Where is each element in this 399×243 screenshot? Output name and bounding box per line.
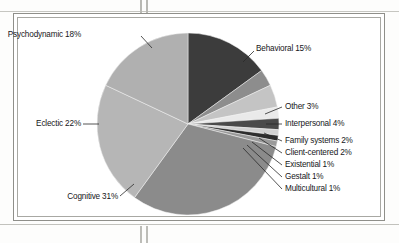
pie-chart: Psychodynamic 18% Behavioral 15% Other 3… bbox=[0, 0, 399, 243]
page-gutter-line-bottom-right bbox=[146, 226, 148, 243]
slice-label-family-systems: Family systems 2% bbox=[285, 136, 353, 145]
slice-label-multicultural: Multicultural 1% bbox=[285, 184, 340, 193]
figure-page: Psychodynamic 18% Behavioral 15% Other 3… bbox=[0, 0, 399, 243]
slice-label-existential: Existential 1% bbox=[285, 160, 334, 169]
slice-label-other: Other 3% bbox=[285, 102, 318, 111]
slice-label-client-centered: Client-centered 2% bbox=[285, 148, 352, 157]
page-gutter-line-bottom-left bbox=[140, 226, 142, 243]
slice-label-psychodynamic: Psychodynamic 18% bbox=[8, 30, 81, 39]
slice-label-cognitive: Cognitive 31% bbox=[67, 192, 118, 201]
slice-label-behavioral: Behavioral 15% bbox=[256, 44, 311, 53]
page-bottom-rule bbox=[0, 224, 399, 225]
pie-slice-group bbox=[97, 33, 279, 215]
slice-label-eclectic: Eclectic 22% bbox=[36, 119, 81, 128]
slice-label-interpersonal: Interpersonal 4% bbox=[285, 119, 344, 128]
slice-label-gestalt: Gestalt 1% bbox=[285, 172, 323, 181]
